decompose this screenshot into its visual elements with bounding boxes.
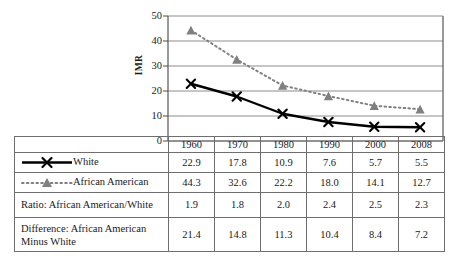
cell-diff-1980: 11.3 bbox=[261, 218, 307, 252]
legend-cell-african-american: African American bbox=[15, 173, 169, 193]
row-label-ratio: Ratio: African American/White bbox=[15, 193, 169, 218]
column-header-1980: 1980 bbox=[261, 137, 307, 153]
table-row-african-american: African American 44.3 32.6 22.2 18.0 14.… bbox=[15, 173, 445, 193]
cell-ratio-1980: 2.0 bbox=[261, 193, 307, 218]
series-white bbox=[187, 80, 425, 132]
chart-plot-region: IMR 50 40 30 20 10 0 bbox=[0, 0, 458, 146]
cell-afam-1980: 22.2 bbox=[261, 173, 307, 193]
table-row-ratio: Ratio: African American/White 1.9 1.8 2.… bbox=[15, 193, 445, 218]
cell-diff-1990: 10.4 bbox=[307, 218, 353, 252]
legend-cell-white: White bbox=[15, 153, 169, 173]
white-series-legend-icon bbox=[21, 156, 73, 169]
cell-diff-2008: 7.2 bbox=[399, 218, 445, 252]
axis-lines bbox=[168, 16, 443, 141]
cell-diff-2000: 8.4 bbox=[353, 218, 399, 252]
row-label-difference-line1: Difference: African American bbox=[21, 223, 146, 234]
column-header-2008: 2008 bbox=[399, 137, 445, 153]
row-label-difference-line2: Minus White bbox=[21, 236, 76, 247]
data-point-african-american-1960 bbox=[186, 26, 195, 35]
cell-afam-2000: 14.1 bbox=[353, 173, 399, 193]
data-point-african-american-1970 bbox=[232, 55, 241, 64]
infant-mortality-figure: IMR 50 40 30 20 10 0 bbox=[0, 0, 458, 266]
african-american-series-legend-icon bbox=[21, 176, 73, 189]
cell-ratio-2000: 2.5 bbox=[353, 193, 399, 218]
column-header-1960: 1960 bbox=[169, 137, 215, 153]
data-point-african-american-2008 bbox=[415, 105, 424, 114]
cell-ratio-1970: 1.8 bbox=[215, 193, 261, 218]
column-header-1990: 1990 bbox=[307, 137, 353, 153]
cell-white-2008: 5.5 bbox=[399, 153, 445, 173]
cell-ratio-1960: 1.9 bbox=[169, 193, 215, 218]
cell-afam-1970: 32.6 bbox=[215, 173, 261, 193]
column-header-1970: 1970 bbox=[215, 137, 261, 153]
table-row-difference: Difference: African American Minus White… bbox=[15, 218, 445, 252]
cell-white-1990: 7.6 bbox=[307, 153, 353, 173]
cell-ratio-2008: 2.3 bbox=[399, 193, 445, 218]
cell-white-1960: 22.9 bbox=[169, 153, 215, 173]
gridlines bbox=[168, 16, 443, 116]
y-axis-ticks bbox=[163, 16, 168, 141]
legend-label-african-american: African American bbox=[73, 176, 149, 189]
cell-ratio-1990: 2.4 bbox=[307, 193, 353, 218]
cell-afam-1960: 44.3 bbox=[169, 173, 215, 193]
cell-white-1970: 17.8 bbox=[215, 153, 261, 173]
cell-afam-1990: 18.0 bbox=[307, 173, 353, 193]
data-table: 1960 1970 1980 1990 2000 2008 bbox=[14, 136, 445, 252]
legend-label-white: White bbox=[73, 156, 99, 169]
header-spacer-cell bbox=[15, 137, 169, 153]
cell-white-1980: 10.9 bbox=[261, 153, 307, 173]
cell-afam-2008: 12.7 bbox=[399, 173, 445, 193]
chart-svg bbox=[0, 0, 458, 146]
table-header-row: 1960 1970 1980 1990 2000 2008 bbox=[15, 137, 445, 153]
cell-white-2000: 5.7 bbox=[353, 153, 399, 173]
table-row-white: White 22.9 17.8 10.9 7.6 5.7 5.5 bbox=[15, 153, 445, 173]
cell-diff-1960: 21.4 bbox=[169, 218, 215, 252]
cell-diff-1970: 14.8 bbox=[215, 218, 261, 252]
series-african-american bbox=[186, 26, 424, 114]
column-header-2000: 2000 bbox=[353, 137, 399, 153]
data-table-container: 1960 1970 1980 1990 2000 2008 bbox=[14, 136, 444, 252]
row-label-difference: Difference: African American Minus White bbox=[15, 218, 169, 252]
